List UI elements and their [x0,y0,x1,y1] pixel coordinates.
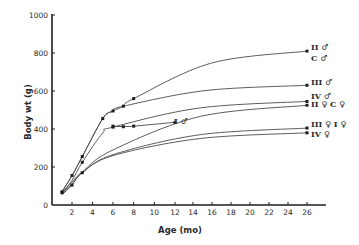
y-tick-label: 0 [43,201,48,210]
y-tick-label: 800 [34,49,49,58]
x-tick-label: 4 [90,208,95,217]
series-label: II ♂ [311,42,328,52]
data-point-marker [306,100,309,103]
x-tick-label: 16 [207,208,217,217]
x-tick-label: 12 [170,208,180,217]
data-point-marker [122,125,125,128]
y-tick-label: 400 [34,125,49,134]
x-axis-title: Age (mo) [158,225,202,235]
x-tick-label: 10 [150,208,160,217]
data-point-marker [112,125,115,128]
body-weight-chart: 020040060080010002468101214161820222426 … [0,0,359,245]
data-point-marker [81,171,84,174]
x-tick-label: 18 [226,208,236,217]
data-point-marker [81,161,84,164]
x-tick-label: 2 [70,208,75,217]
x-tick-label: 14 [188,208,198,217]
data-point-marker [306,131,309,134]
series-label: I ♂ [174,116,188,126]
x-tick-label: 6 [111,208,116,217]
data-point-marker [306,84,309,87]
data-point-marker [81,155,84,158]
series-label: III ♀ I ♀ [311,119,346,129]
x-tick-label: 26 [302,208,312,217]
data-point-marker [71,174,74,177]
series-label: C ♂ [311,53,327,63]
data-point-marker [306,104,309,107]
data-point-marker [132,125,135,128]
series-labels: II ♂C ♂III ♂IV ♂II ♀ C ♀I ♂III ♀ I ♀IV ♀ [174,42,346,139]
data-point-marker [306,127,309,130]
x-tick-label: 24 [283,208,293,217]
y-tick-label: 200 [34,163,49,172]
data-point-marker [306,50,309,53]
data-point-marker [122,105,125,108]
x-tick-label: 20 [245,208,255,217]
chart-svg: 020040060080010002468101214161820222426 … [0,0,359,245]
x-tick-label: 8 [131,208,136,217]
data-point-marker [101,117,104,120]
data-point-marker [61,191,64,194]
y-tick-label: 1000 [29,11,48,20]
y-axis-title: Body wt (g) [23,84,33,140]
data-point-marker [132,97,135,100]
series-label: III ♂ [311,77,332,87]
y-tick-label: 600 [34,87,49,96]
curve-6 [62,133,307,195]
data-point-marker [112,109,115,112]
series-label: II ♀ C ♀ [311,99,345,109]
series-label: IV ♀ [311,129,330,139]
data-point-marker [71,184,74,187]
x-tick-label: 22 [264,208,274,217]
